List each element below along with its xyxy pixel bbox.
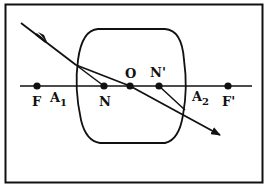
label-o: O: [125, 66, 136, 81]
label-f-prime: F': [222, 94, 235, 109]
point-f: [33, 82, 40, 89]
point-o: [126, 82, 133, 89]
label-a2-sub: 2: [202, 96, 209, 107]
label-n: N: [99, 94, 111, 109]
label-n-prime: N': [150, 65, 166, 80]
ray-n-prime-to-a2: [159, 86, 185, 110]
point-n: [100, 82, 107, 89]
incident-ray: [21, 23, 76, 65]
label-a1-sub: 1: [60, 97, 67, 108]
thick-lens-diagram: F A 1 N O N' A 2 F': [0, 0, 266, 187]
point-n-prime: [155, 82, 162, 89]
ray-a1-to-n: [76, 65, 104, 86]
label-f: F: [32, 94, 42, 109]
point-f-prime: [224, 82, 231, 89]
emergent-ray: [130, 86, 220, 135]
